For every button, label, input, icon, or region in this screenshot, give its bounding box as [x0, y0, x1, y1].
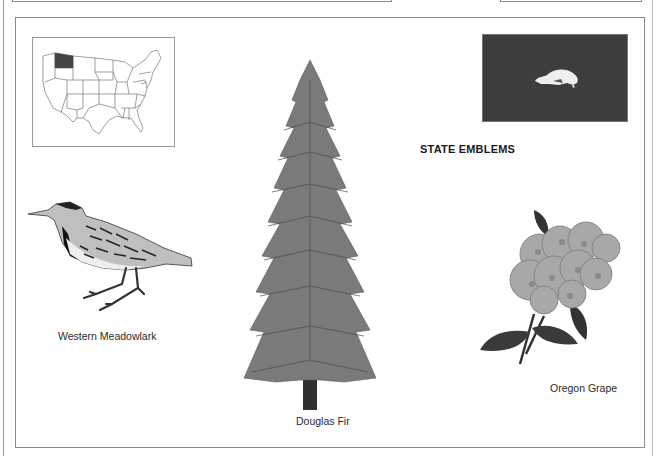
bird-icon — [26, 198, 196, 320]
us-locator-map — [32, 37, 175, 147]
caption-western-meadowlark: Western Meadowlark — [58, 330, 156, 342]
page-edge-right — [652, 0, 653, 456]
tree-icon — [240, 60, 380, 412]
beaver-icon — [483, 35, 627, 121]
previous-panel-frame — [12, 0, 392, 2]
flower-icon — [478, 204, 638, 374]
page-heading: STATE EMBLEMS — [420, 143, 515, 155]
page-edge-left — [3, 0, 4, 456]
douglas-fir-illustration — [240, 60, 380, 412]
western-meadowlark-illustration — [26, 198, 196, 320]
state-flag — [482, 34, 628, 122]
caption-douglas-fir: Douglas Fir — [296, 415, 350, 427]
caption-oregon-grape: Oregon Grape — [550, 382, 617, 394]
previous-panel-frame-right — [500, 0, 642, 2]
oregon-grape-illustration — [478, 204, 638, 374]
us-map-icon — [33, 38, 174, 146]
